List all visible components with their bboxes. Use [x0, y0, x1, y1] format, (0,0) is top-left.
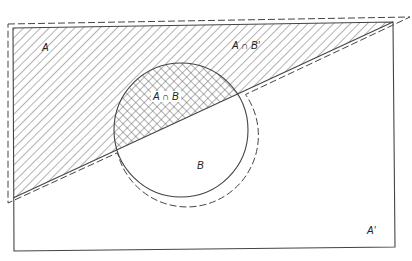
label-a: A — [42, 42, 49, 53]
label-b: B — [197, 160, 204, 171]
venn-diagram — [0, 0, 412, 261]
label-a-intersect-b-complement: A ∩ B′ — [232, 40, 260, 51]
label-a-intersect-b: A ∩ B — [151, 91, 181, 102]
label-a-complement: A′ — [367, 225, 376, 236]
